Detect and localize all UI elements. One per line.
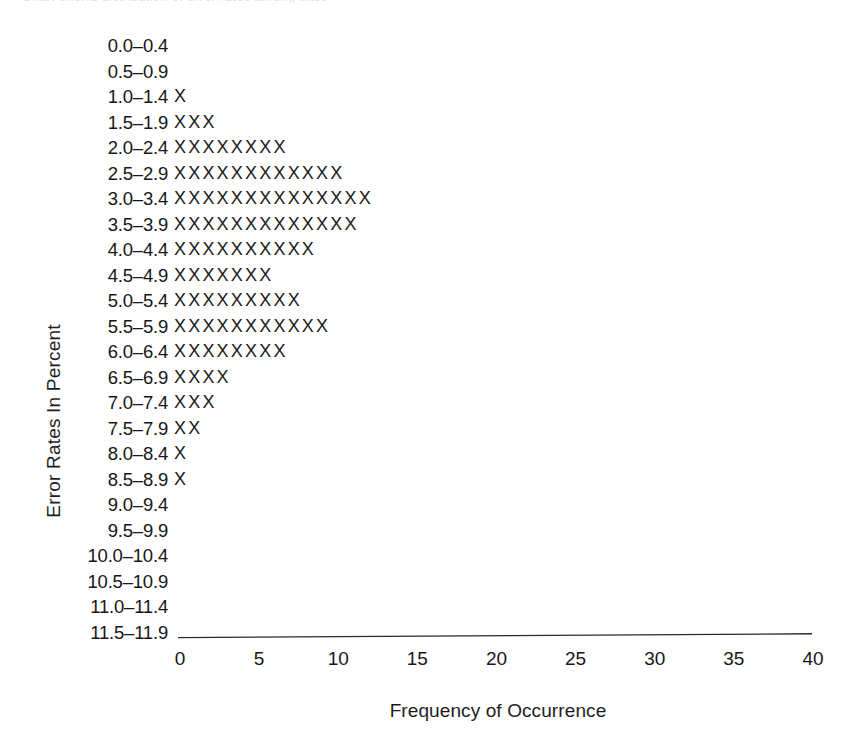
plot-row: 11.0–11.4 (0, 594, 857, 620)
x-axis-tick-label: 20 (467, 648, 527, 670)
x-axis-title: Frequency of Occurrence (178, 700, 818, 722)
row-marks: X (174, 467, 188, 493)
y-axis-tick-label: 2.5–2.9 (0, 161, 168, 187)
row-marks: XXXXXXXX (174, 135, 288, 161)
y-axis-tick-label: 6.5–6.9 (0, 365, 168, 391)
plot-row: 10.0–10.4 (0, 543, 857, 569)
plot-row: 8.5–8.9X (0, 467, 857, 493)
plot-row: 4.0–4.4XXXXXXXXXX (0, 237, 857, 263)
row-marks: XXXX (174, 365, 231, 391)
y-axis-tick-label: 6.0–6.4 (0, 339, 168, 365)
plot-row: 5.0–5.4XXXXXXXXX (0, 288, 857, 314)
y-axis-tick-label: 0.0–0.4 (0, 33, 168, 59)
row-marks: XXXXXXXX (174, 339, 288, 365)
y-axis-tick-label: 0.5–0.9 (0, 59, 168, 85)
y-axis-tick-label: 8.5–8.9 (0, 467, 168, 493)
x-axis-tick-label: 40 (783, 648, 843, 670)
y-axis-tick-label: 4.5–4.9 (0, 263, 168, 289)
x-axis-tick-label: 10 (308, 648, 368, 670)
y-axis-tick-label: 3.0–3.4 (0, 186, 168, 212)
row-marks: XXXXXXXXXXXXX (174, 212, 359, 238)
y-axis-tick-label: 8.0–8.4 (0, 441, 168, 467)
y-axis-tick-label: 10.0–10.4 (0, 543, 168, 569)
x-axis-tick-label: 5 (229, 648, 289, 670)
row-marks: XXXXXXXXX (174, 288, 302, 314)
row-marks: XXXXXXXXXXX (174, 314, 330, 340)
cropped-caption-sliver: Chart shows distribution of error rates … (22, 0, 722, 3)
plot-row: 6.0–6.4XXXXXXXX (0, 339, 857, 365)
plot-row: 9.5–9.9 (0, 518, 857, 544)
plot-row: 2.5–2.9XXXXXXXXXXXX (0, 161, 857, 187)
row-marks: XXXXXXX (174, 263, 273, 289)
plot-row: 8.0–8.4X (0, 441, 857, 467)
x-axis-tick-label: 0 (150, 648, 210, 670)
plot-row: 7.5–7.9XX (0, 416, 857, 442)
y-axis-tick-label: 5.5–5.9 (0, 314, 168, 340)
x-axis-tick-labels: 0510152025303540 (0, 648, 857, 678)
plot-row: 9.0–9.4 (0, 492, 857, 518)
y-axis-tick-label: 2.0–2.4 (0, 135, 168, 161)
plot-row: 3.0–3.4XXXXXXXXXXXXXX (0, 186, 857, 212)
x-axis-tick-label: 15 (387, 648, 447, 670)
y-axis-tick-label: 4.0–4.4 (0, 237, 168, 263)
x-axis-line (178, 633, 811, 636)
y-axis-tick-label: 7.0–7.4 (0, 390, 168, 416)
plot-row: 0.5–0.9 (0, 59, 857, 85)
row-marks: XXXXXXXXXXXXXX (174, 186, 373, 212)
y-axis-tick-label: 11.5–11.9 (0, 620, 168, 646)
row-marks: XXX (174, 110, 217, 136)
y-axis-tick-label: 1.0–1.4 (0, 84, 168, 110)
y-axis-tick-label: 11.0–11.4 (0, 594, 168, 620)
row-marks: X (174, 84, 188, 110)
y-axis-tick-label: 3.5–3.9 (0, 212, 168, 238)
plot-row: 10.5–10.9 (0, 569, 857, 595)
row-marks: XXXXXXXXXXXX (174, 161, 344, 187)
histogram-figure: Chart shows distribution of error rates … (0, 0, 857, 735)
plot-row: 1.0–1.4X (0, 84, 857, 110)
y-axis-tick-label: 7.5–7.9 (0, 416, 168, 442)
plot-row: 3.5–3.9XXXXXXXXXXXXX (0, 212, 857, 238)
plot-row: 0.0–0.4 (0, 33, 857, 59)
plot-row: 1.5–1.9XXX (0, 110, 857, 136)
row-marks: XXXXXXXXXX (174, 237, 316, 263)
plot-row: 2.0–2.4XXXXXXXX (0, 135, 857, 161)
y-axis-tick-label: 10.5–10.9 (0, 569, 168, 595)
y-axis-tick-label: 9.0–9.4 (0, 492, 168, 518)
x-axis-tick-label: 35 (704, 648, 764, 670)
plot-rows: 0.0–0.40.5–0.91.0–1.4X1.5–1.9XXX2.0–2.4X… (0, 33, 857, 645)
x-axis-tick-label: 25 (546, 648, 606, 670)
y-axis-tick-label: 5.0–5.4 (0, 288, 168, 314)
row-marks: XX (174, 416, 202, 442)
y-axis-tick-label: 9.5–9.9 (0, 518, 168, 544)
plot-row: 7.0–7.4XXX (0, 390, 857, 416)
row-marks: XXX (174, 390, 217, 416)
plot-row: 4.5–4.9XXXXXXX (0, 263, 857, 289)
x-axis-tick-label: 30 (625, 648, 685, 670)
plot-row: 5.5–5.9XXXXXXXXXXX (0, 314, 857, 340)
row-marks: X (174, 441, 188, 467)
plot-row: 6.5–6.9XXXX (0, 365, 857, 391)
y-axis-tick-label: 1.5–1.9 (0, 110, 168, 136)
